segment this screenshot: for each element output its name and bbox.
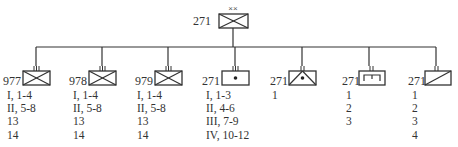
armored-infantry-icon [88, 64, 118, 86]
hq-designation: 271 [193, 15, 211, 27]
unit-subunit-list: I, 1-4 II, 5-8 13 14 [137, 89, 166, 142]
echelon-ii-icon [301, 66, 304, 71]
echelon-ii-icon [435, 66, 438, 71]
subunit-row: 1 [272, 89, 278, 102]
unit-designation: 978 [69, 75, 87, 87]
unit-designation: 979 [135, 75, 153, 87]
subunit-row: 2 [412, 102, 418, 115]
subunit-row: 14 [137, 129, 166, 142]
unit-subunit-list: I, 1-3 II, 4-6 III, 7-9 IV, 10-12 [206, 89, 249, 142]
subunit-row: II, 5-8 [73, 102, 102, 115]
unit-subunit-list: 1 2 3 4 [412, 89, 418, 142]
subunit-row: I, 1-3 [206, 89, 249, 102]
echelon-iii-icon [166, 66, 171, 71]
subunit-row: 2 [346, 102, 352, 115]
echelon-iii-icon [233, 66, 238, 71]
subunit-row: 3 [346, 115, 352, 128]
echelon-xx-icon: ×× [228, 4, 238, 13]
unit-subunit-list: 1 [272, 89, 278, 102]
subunit-row: II, 4-6 [206, 102, 249, 115]
artillery-icon [221, 64, 251, 86]
unit-designation: 271 [202, 75, 220, 87]
subunit-row: 1 [412, 89, 418, 102]
subunit-row: 1 [346, 89, 352, 102]
unit-subunit-list: I, 1-4 II, 5-8 13 14 [7, 89, 36, 142]
subunit-row: I, 1-4 [73, 89, 102, 102]
subunit-row: II, 5-8 [7, 102, 36, 115]
subunit-row: III, 7-9 [206, 115, 249, 128]
echelon-ii-icon [370, 66, 373, 71]
subunit-row: 13 [73, 115, 102, 128]
engineer-icon [358, 64, 388, 86]
air-defense-artillery-icon [288, 64, 318, 86]
unit-designation: 271 [270, 75, 288, 87]
subunit-row: II, 5-8 [137, 102, 166, 115]
unit-designation: 977 [3, 75, 21, 87]
subunit-row: I, 1-4 [137, 89, 166, 102]
subunit-row: 14 [7, 129, 36, 142]
armored-infantry-icon [22, 64, 52, 86]
subunit-row: IV, 10-12 [206, 129, 249, 142]
reconnaissance-icon [424, 64, 454, 86]
armored-infantry-icon: ×× [218, 4, 250, 30]
unit-subunit-list: 1 2 3 [346, 89, 352, 129]
echelon-iii-icon [100, 66, 105, 71]
echelon-iii-icon [34, 66, 39, 71]
subunit-row: 13 [137, 115, 166, 128]
subunit-row: 13 [7, 115, 36, 128]
subunit-row: 14 [73, 129, 102, 142]
armored-infantry-icon [154, 64, 184, 86]
subunit-row: 3 [412, 115, 418, 128]
subunit-row: 4 [412, 129, 418, 142]
subunit-row: I, 1-4 [7, 89, 36, 102]
unit-subunit-list: I, 1-4 II, 5-8 13 14 [73, 89, 102, 142]
